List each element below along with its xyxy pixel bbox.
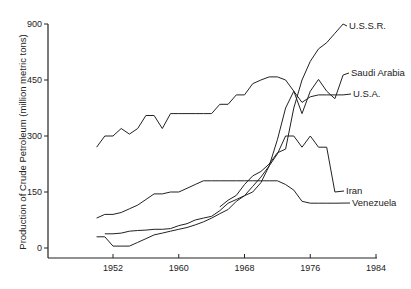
y-tick-label: 150 [27,187,42,197]
line-chart: 0150300450900 19521960196819761984 Produ… [0,0,411,289]
series-label-saudi-arabia: Saudi Arabia [351,67,406,78]
x-tick-label: 1960 [169,263,189,273]
y-ticks: 0150300450900 [27,19,48,253]
x-ticks: 19521960196819761984 [103,254,386,273]
series-label-u-s-s-r: U.S.S.R. [349,20,386,31]
y-tick-label: 450 [27,75,42,85]
x-tick-label: 1976 [300,263,320,273]
y-tick-label: 0 [37,243,42,253]
y-tick-label: 300 [27,131,42,141]
x-tick-label: 1952 [103,263,123,273]
series-label-venezuela: Venezuela [352,197,397,208]
series-label-u-s-a: U.S.A. [353,88,380,99]
series-line-venezuela [97,181,350,218]
axes [48,24,377,258]
x-tick-label: 1984 [366,263,386,273]
series-lines [97,24,351,246]
x-tick-label: 1968 [234,263,254,273]
y-axis-label: Production of Crude Petroleum (million m… [17,34,28,249]
series-line-iran [97,136,344,246]
series-label-iran: Iran [346,185,362,196]
y-tick-label: 900 [27,19,42,29]
series-labels: U.S.S.R.Saudi ArabiaU.S.A.IranVenezuela [346,20,406,208]
